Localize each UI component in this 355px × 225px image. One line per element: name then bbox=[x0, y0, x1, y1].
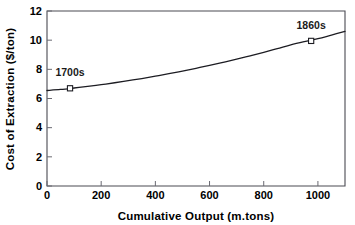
x-tick-label: 200 bbox=[92, 189, 110, 201]
chart-background bbox=[0, 0, 355, 225]
chart-container: 024681012 02004006008001000 1700s1860s C… bbox=[0, 0, 355, 225]
x-tick-label: 1000 bbox=[306, 189, 330, 201]
x-tick-label: 400 bbox=[146, 189, 164, 201]
y-tick-label: 2 bbox=[36, 151, 42, 163]
x-axis-title: Cumulative Output (m.tons) bbox=[118, 210, 275, 222]
extraction-cost-line-chart: 024681012 02004006008001000 1700s1860s C… bbox=[0, 0, 355, 225]
x-tick-label: 600 bbox=[200, 189, 218, 201]
y-tick-label: 10 bbox=[30, 34, 42, 46]
y-tick-label: 4 bbox=[36, 121, 43, 133]
y-tick-label: 6 bbox=[36, 92, 42, 104]
data-point-marker bbox=[309, 38, 314, 43]
data-point-label: 1700s bbox=[55, 66, 84, 78]
y-axis-title: Cost of Extraction ($/ton) bbox=[4, 28, 16, 171]
y-tick-label: 8 bbox=[36, 63, 42, 75]
x-tick-label: 0 bbox=[44, 189, 50, 201]
data-point-label: 1860s bbox=[297, 19, 326, 31]
y-tick-label: 12 bbox=[30, 5, 42, 17]
y-tick-label: 0 bbox=[36, 180, 42, 192]
data-point-marker bbox=[67, 86, 72, 91]
x-tick-label: 800 bbox=[255, 189, 273, 201]
